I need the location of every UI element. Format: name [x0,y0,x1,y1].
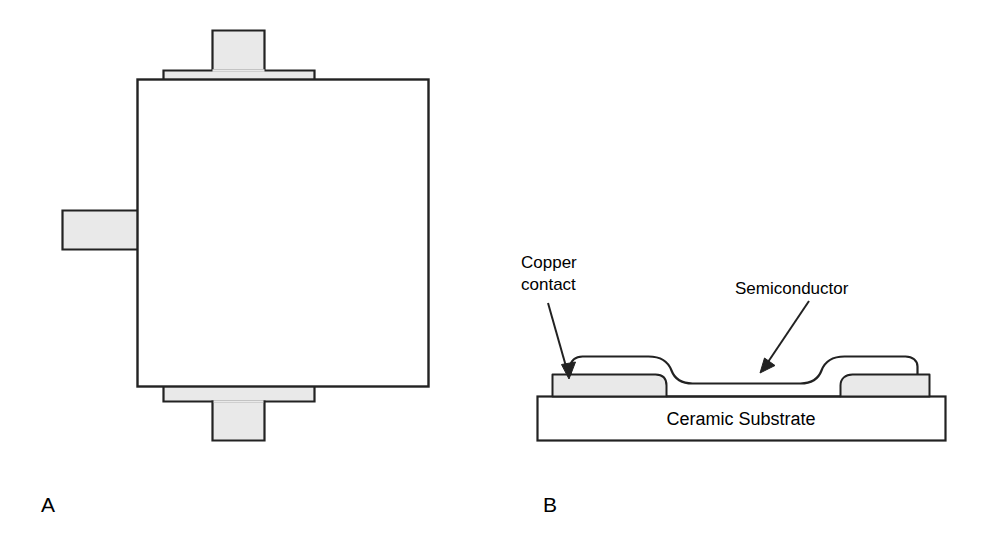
panel-a-letter: A [41,493,55,516]
panel-b-right-copper-contact [841,375,930,397]
semiconductor-label: Semiconductor [735,279,849,298]
figure-root: A Ceramic Substrate Copper contact [0,0,990,548]
copper-contact-label-line2: contact [521,275,576,294]
copper-contact-label-line1: Copper [521,253,577,272]
panel-a-left-tab [63,211,139,250]
panel-a-top-stem [213,31,265,71]
figure-canvas: A Ceramic Substrate Copper contact [0,0,990,548]
ceramic-substrate-label: Ceramic Substrate [666,409,815,429]
panel-b-letter: B [543,493,557,516]
panel-a-bottom-stem [213,402,265,441]
panel-a-body [138,80,429,387]
panel-a-bottom-flange [164,386,315,402]
